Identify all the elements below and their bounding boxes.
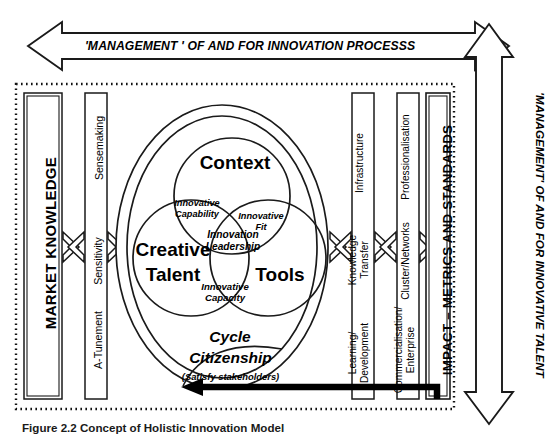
innovative-capacity-line2: Capacity: [185, 292, 265, 303]
commercialisation-line1: Commercialisation/: [393, 300, 405, 400]
professionalisation-label: Professionalisation: [397, 92, 413, 222]
right-talent-arrow: [465, 24, 513, 424]
a-tunement-label: A-Tunement: [90, 288, 106, 392]
commercialisation-line2: Enterprise: [405, 300, 417, 400]
innovation-leadership-line2: Leadership: [190, 241, 276, 253]
cycle-label: Cycle: [175, 328, 285, 348]
innovative-capability-line2: Capability: [160, 209, 234, 220]
sensemaking-label: Sensemaking: [91, 93, 107, 203]
top-arrow-label: 'MANAGEMENT ' OF AND FOR INNOVATION PROC…: [60, 36, 440, 56]
infrastructure-label: Infrastructure: [351, 108, 367, 218]
learning-development-line1: Learning/: [347, 304, 359, 402]
context-label: Context: [180, 152, 290, 174]
innovative-capacity-line1: Innovative: [185, 281, 265, 292]
innovative-fit-line1: Innovative: [228, 211, 294, 222]
innovative-capacity-label: Innovative Capacity: [185, 281, 265, 307]
impact-metrics-standards-label: IMPACT – METRICS AND STANDARDS: [437, 115, 457, 385]
cluster-networks-label: Cluster/Networks: [397, 214, 413, 308]
satisfy-stakeholders-label: (Satisfy stakeholders): [168, 371, 293, 385]
figure-caption: Figure 2.2 Concept of Holistic Innovatio…: [22, 421, 522, 438]
commercialisation-enterprise-label: Commercialisation/ Enterprise: [392, 300, 418, 400]
connector-cluster-in: [380, 232, 396, 262]
knowledge-transfer-label: Knowledge Transfer: [346, 218, 372, 302]
knowledge-transfer-line2: Transfer: [359, 218, 371, 302]
citizenship-label: Citizenship: [163, 349, 298, 369]
right-arrow-label: 'MANAGEMENT' OF AND FOR INNOVATIVE TALEN…: [532, 90, 549, 380]
innovative-capability-label: Innovative Capability: [160, 198, 234, 224]
learning-development-label: Learning/ Development: [346, 304, 372, 402]
innovation-leadership-label: Innovation Leadership: [190, 229, 276, 255]
learning-development-line2: Development: [359, 304, 371, 402]
innovation-leadership-line1: Innovation: [190, 229, 276, 241]
connector-capabilities-in: [68, 232, 84, 262]
market-knowledge-label: MARKET KNOWLEDGE: [40, 118, 60, 368]
knowledge-transfer-line1: Knowledge: [347, 218, 359, 302]
innovative-capability-line1: Innovative: [160, 198, 234, 209]
